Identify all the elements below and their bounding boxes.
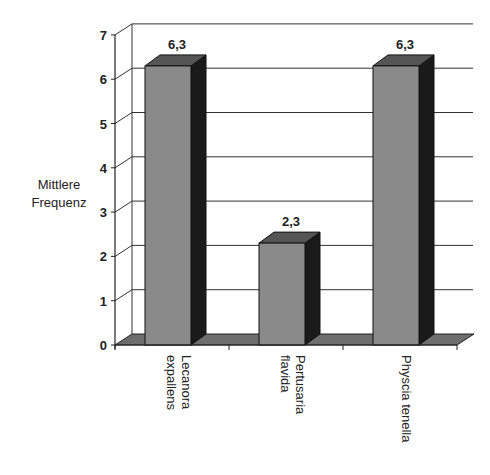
- bar: [259, 232, 320, 345]
- y-tick-label: 3: [100, 205, 107, 220]
- y-axis-title-line-1: Mittlere: [18, 176, 100, 194]
- y-tick-label: 4: [100, 161, 108, 176]
- y-axis-title: Mittlere Frequenz: [18, 176, 100, 212]
- bar-chart: 01234567 6,32,36,3 LecanoraexpallensPert…: [0, 0, 490, 475]
- category-label: Physcia tenella: [399, 355, 414, 443]
- bars: [145, 55, 434, 345]
- y-tick-label: 5: [100, 117, 107, 132]
- category-label: Pertusariaflavida: [278, 355, 308, 415]
- bar: [145, 55, 206, 345]
- y-tick-label: 1: [100, 294, 107, 309]
- category-labels: LecanoraexpallensPertusariaflavidaPhysci…: [164, 355, 415, 443]
- y-tick-label: 2: [100, 249, 107, 264]
- y-axis-title-line-2: Frequenz: [18, 194, 100, 212]
- y-tick-label: 0: [100, 338, 107, 353]
- category-label: Lecanoraexpallens: [164, 355, 194, 410]
- data-label: 6,3: [396, 37, 414, 52]
- y-tick-label: 7: [100, 28, 107, 43]
- data-label: 6,3: [168, 37, 186, 52]
- y-tick-label: 6: [100, 72, 107, 87]
- bar: [373, 55, 434, 345]
- data-label: 2,3: [282, 214, 300, 229]
